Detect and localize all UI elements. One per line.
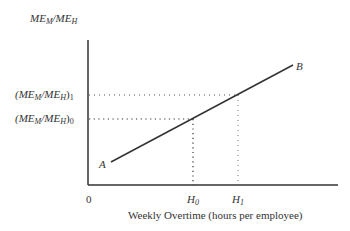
ab-line bbox=[111, 65, 293, 162]
x-axis-title: Weekly Overtime (hours per employee) bbox=[128, 209, 303, 222]
y-tick-0: (MEM/MEH)0 bbox=[15, 112, 74, 126]
diagram: A B MEM/MEH (MEM/MEH)1 (MEM/MEH)0 0 H0 H… bbox=[0, 0, 350, 231]
y-tick-1: (MEM/MEH)1 bbox=[15, 88, 74, 102]
x-tick-h1: H1 bbox=[231, 193, 244, 207]
origin-label: 0 bbox=[86, 193, 92, 205]
point-b-label: B bbox=[296, 60, 303, 72]
y-axis-title: MEM/MEH bbox=[29, 12, 79, 26]
point-a-label: A bbox=[98, 158, 106, 170]
x-tick-h0: H0 bbox=[186, 193, 199, 207]
